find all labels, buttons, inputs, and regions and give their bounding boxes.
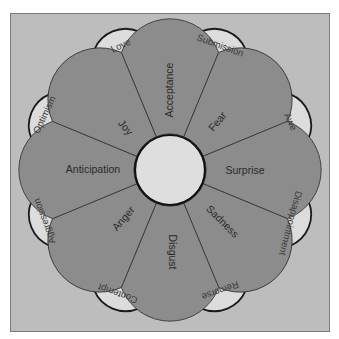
emotion-wheel-svg: Acceptance Fear Surprise Sadness Disgust… xyxy=(0,0,339,339)
center-hub xyxy=(135,135,205,205)
label-surprise: Surprise xyxy=(225,164,264,176)
label-anticipation: Anticipation xyxy=(66,163,120,175)
label-acceptance: Acceptance xyxy=(163,62,175,117)
label-disgust: Disgust xyxy=(167,234,179,269)
emotion-wheel-diagram: Acceptance Fear Surprise Sadness Disgust… xyxy=(0,0,339,339)
